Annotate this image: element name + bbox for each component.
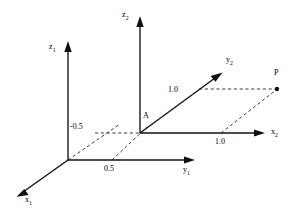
axis-label-z2: z2 [122, 11, 129, 21]
measurement-offset-y: 0.5 [104, 165, 114, 173]
axis-label-y2: y2 [226, 56, 233, 66]
axis-label-y1-sub: 1 [187, 170, 190, 176]
axis-z1-arrowhead [64, 41, 71, 52]
axis-x2-arrowhead [254, 129, 265, 136]
projection-half-offset-diagonal [112, 127, 147, 160]
axis-label-x2: x2 [271, 128, 278, 138]
axis-label-z1: z1 [49, 43, 56, 53]
axis-x1-line [23, 160, 68, 192]
axis-z1 [64, 41, 71, 160]
point-label-a: A [143, 112, 149, 120]
measurement-p-y2: 1.0 [168, 86, 178, 94]
axis-label-z1-sub: 1 [53, 47, 56, 53]
point-p-dot [275, 87, 279, 91]
axis-label-x1-sub: 1 [29, 200, 32, 206]
axis-z2-arrowhead [136, 16, 143, 27]
diagram-canvas [0, 0, 295, 216]
axis-label-x1: x1 [25, 196, 32, 206]
axis-y2 [140, 73, 223, 134]
axis-y1-arrowhead [184, 156, 195, 163]
coordinate-frame-diagram: z1 y1 x1 z2 y2 x2 A P -0.5 0.5 1.0 1.0 [0, 0, 295, 216]
axis-label-y1: y1 [183, 166, 190, 176]
axis-label-x2-sub: 2 [275, 132, 278, 138]
projection-p-diagonal [221, 90, 276, 133]
axis-y1 [68, 156, 195, 163]
axis-x1 [17, 160, 69, 197]
axis-label-z2-sub: 2 [126, 15, 129, 21]
axis-label-y2-sub: 2 [230, 60, 233, 66]
measurement-p-x2: 1.0 [215, 138, 225, 146]
measurement-offset-x: -0.5 [70, 123, 83, 131]
point-label-p: P [274, 69, 279, 77]
axis-x2 [140, 129, 265, 136]
